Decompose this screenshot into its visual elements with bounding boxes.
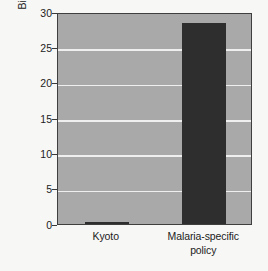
bar-kyoto[interactable] bbox=[85, 222, 129, 224]
x-axis-tick-label-line1: Malaria-specific bbox=[168, 230, 239, 242]
y-axis-tick-label-group: 30 25 20 15 10 5 0 bbox=[26, 0, 52, 271]
y-axis-tick-label: 15 bbox=[26, 114, 52, 125]
y-axis-tick-label: 25 bbox=[26, 43, 52, 54]
x-axis-tick-label-malaria-specific-policy: Malaria-specific policy bbox=[155, 229, 253, 257]
y-axis-tick-label: 0 bbox=[26, 220, 52, 231]
y-axis-tick-label: 20 bbox=[26, 78, 52, 89]
x-axis-tick-label-line1: Kyoto bbox=[93, 230, 119, 242]
plot-area bbox=[57, 13, 252, 225]
y-axis-tick-label: 5 bbox=[26, 184, 52, 195]
x-axis-tick-label-group: Kyoto Malaria-specific policy bbox=[57, 229, 252, 269]
x-axis-tick-label-kyoto: Kyoto bbox=[57, 229, 155, 243]
bar-malaria-specific-policy[interactable] bbox=[182, 23, 226, 224]
x-axis-tick-label-line2: policy bbox=[190, 244, 216, 256]
y-axis-tick-label: 10 bbox=[26, 149, 52, 160]
bar-chart-figure: Billion malaria infections avoided 30 25… bbox=[0, 0, 268, 271]
y-axis-tick-label: 30 bbox=[26, 8, 52, 19]
